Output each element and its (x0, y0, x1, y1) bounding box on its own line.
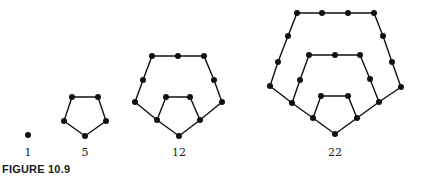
vertex-dot (332, 131, 338, 137)
vertex-dot (371, 10, 377, 16)
vertex-dot (154, 117, 160, 123)
vertex-dot (354, 115, 360, 121)
graph-22 (267, 10, 404, 137)
vertex-dot (380, 33, 386, 39)
vertex-dot (69, 94, 75, 100)
vertex-dot (197, 117, 203, 123)
vertex-dot (398, 84, 404, 90)
figure-caption: FIGURE 10.9 (2, 163, 70, 175)
vertex-dot (389, 59, 395, 65)
label-graph-1: 1 (25, 146, 32, 159)
vertex-dot (140, 77, 146, 83)
vertex-dot (345, 10, 351, 16)
vertex-dot (310, 115, 316, 121)
graph-5 (61, 94, 109, 139)
vertex-dot (82, 133, 88, 139)
vertex-dot (275, 59, 281, 65)
vertex-dot (297, 77, 303, 83)
vertex-dot (175, 53, 181, 59)
figure-diagram (0, 0, 421, 179)
vertex-dot (95, 94, 101, 100)
vertex-dot (132, 99, 138, 105)
vertex-dot (332, 52, 338, 58)
vertex-dot (318, 93, 324, 99)
vertex-dot (294, 10, 300, 16)
vertex-dot (163, 94, 169, 100)
vertex-dot (367, 76, 373, 82)
vertex-dot (211, 77, 217, 83)
vertex-dot (219, 99, 225, 105)
edge-path (64, 97, 106, 136)
vertex-dot (357, 52, 363, 58)
vertex-dot (187, 94, 193, 100)
label-graph-12: 12 (172, 146, 186, 159)
edge-path (292, 55, 379, 118)
edge-path (270, 13, 401, 103)
vertex-dot (176, 133, 182, 139)
vertex-dot (103, 118, 109, 124)
vertex-dot (345, 93, 351, 99)
vertex-dot (285, 33, 291, 39)
vertex-dot (149, 53, 155, 59)
edge-path (157, 97, 200, 136)
vertex-dot (376, 99, 382, 105)
edge-path (135, 56, 222, 120)
vertex-dot (201, 53, 207, 59)
vertex-dot (306, 52, 312, 58)
label-graph-5: 5 (82, 146, 89, 159)
vertex-dot (267, 83, 273, 89)
vertex-dot (289, 100, 295, 106)
edge-path (313, 96, 357, 134)
graph-12 (132, 53, 225, 139)
vertex-dot (319, 10, 325, 16)
label-graph-22: 22 (328, 146, 342, 159)
vertex-dot (25, 132, 31, 138)
graph-1 (25, 132, 31, 138)
vertex-dot (61, 118, 67, 124)
